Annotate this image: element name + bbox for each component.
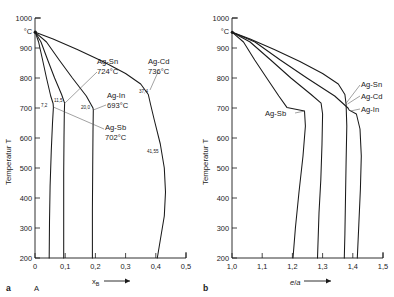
annotation-20-0: 20,0 <box>81 105 90 110</box>
figure-container: 1000 900 800 700 600 500 400 300 200 °C <box>0 0 394 297</box>
label-ag-in-temp: 693°C <box>107 101 129 110</box>
leader-ag-in <box>351 109 361 111</box>
leader-ag-sb <box>295 111 305 113</box>
panel-b-letter: b <box>203 283 208 293</box>
label-ag-cd: Ag-Cd <box>361 92 383 101</box>
y-tick-500: 500 <box>217 164 229 173</box>
y-tick-400: 400 <box>20 194 32 203</box>
y-axis-title: Temperatur T <box>201 139 210 185</box>
panel-b-x-ticklabels: 1,0 1,1 1,2 1,3 1,4 1,5 <box>227 262 388 271</box>
curve-ag-sb <box>35 32 53 258</box>
y-tick-900: 900 <box>20 44 32 53</box>
y-tick-800: 800 <box>20 74 32 83</box>
panel-a-composition-annotations: 7,2 11,5 20,0 37,4 41,55 <box>41 89 159 154</box>
baseline-component-A: A <box>34 284 40 293</box>
annotation-37-4: 37,4 <box>139 89 148 94</box>
x-tick-0-4: 0,4 <box>151 262 161 271</box>
y-tick-700: 700 <box>20 104 32 113</box>
label-ag-sb-temp: 702°C <box>105 133 127 142</box>
x-tick-1-5: 1,5 <box>378 262 388 271</box>
x-tick-1-2: 1,2 <box>287 262 297 271</box>
y-tick-900: 900 <box>217 44 229 53</box>
x-tick-0-5: 0,5 <box>181 262 191 271</box>
y-tick-500: 500 <box>20 164 32 173</box>
leader-ag-sn <box>65 72 98 104</box>
panel-a-x-axis-title-group: xB <box>92 277 130 287</box>
y-axis-unit-celsius: °C <box>24 27 33 36</box>
panel-a-x-ticks <box>35 253 186 258</box>
x-tick-1-0: 1,0 <box>227 262 237 271</box>
y-tick-300: 300 <box>217 224 229 233</box>
annotation-7-2: 7,2 <box>41 103 48 108</box>
y-tick-700: 700 <box>217 104 229 113</box>
panel-a-x-ticklabels: 0 0,1 0,2 0,3 0,4 0,5 <box>33 262 191 271</box>
x-tick-0-3: 0,3 <box>120 262 130 271</box>
label-ag-sb: Ag-Sb <box>105 123 126 132</box>
panel-b-y-ticklabels: 1000 900 800 700 600 500 400 300 200 <box>213 14 229 263</box>
y-tick-800: 800 <box>217 74 229 83</box>
y-tick-600: 600 <box>217 134 229 143</box>
annotation-11-5: 11,5 <box>54 98 63 103</box>
annotation-41-55: 41,55 <box>147 149 159 154</box>
curve-ag-in <box>232 32 361 258</box>
panel-b-y-ticks <box>232 18 237 258</box>
x-tick-1-1: 1,1 <box>257 262 267 271</box>
panel-b-curve-labels: Ag-Sn Ag-Cd Ag-In Ag-Sb <box>265 80 383 118</box>
label-ag-in: Ag-In <box>361 105 379 114</box>
label-ag-in: Ag-In <box>107 91 125 100</box>
x-axis-title: xB <box>92 277 100 287</box>
panel-a-plot: 1000 900 800 700 600 500 400 300 200 °C <box>0 0 197 297</box>
y-axis-unit-celsius: °C <box>221 27 230 36</box>
y-tick-300: 300 <box>20 224 32 233</box>
panel-a-letter: a <box>6 283 11 293</box>
x-tick-0-2: 0,2 <box>90 262 100 271</box>
panel-b: 1000 900 800 700 600 500 400 300 200 °C <box>197 0 394 297</box>
x-tick-0-1: 0,1 <box>60 262 70 271</box>
x-tick-1-3: 1,3 <box>317 262 327 271</box>
x-axis-arrow-head <box>326 279 331 284</box>
label-ag-sb: Ag-Sb <box>265 109 286 118</box>
panel-b-x-ticks <box>232 253 383 258</box>
y-tick-600: 600 <box>20 134 32 143</box>
panel-b-curves <box>232 32 361 258</box>
panel-b-plot: 1000 900 800 700 600 500 400 300 200 °C <box>197 0 394 297</box>
label-ag-sn: Ag-Sn <box>361 80 382 89</box>
label-ag-sn-temp: 724°C <box>97 67 119 76</box>
x-tick-1-4: 1,4 <box>348 262 358 271</box>
label-ag-sn: Ag-Sn <box>97 57 118 66</box>
x-axis-title: e/a <box>290 278 301 287</box>
panel-a-y-ticklabels: 1000 900 800 700 600 500 400 300 200 <box>16 14 32 263</box>
panel-a-y-ticks <box>35 18 40 258</box>
panel-a-leaders <box>53 72 158 129</box>
label-ag-cd-temp: 736°C <box>148 67 170 76</box>
y-tick-1000: 1000 <box>213 14 229 23</box>
y-tick-200: 200 <box>20 254 32 263</box>
panel-a: 1000 900 800 700 600 500 400 300 200 °C <box>0 0 197 297</box>
leader-ag-in <box>93 105 106 110</box>
label-ag-cd: Ag-Cd <box>148 57 170 66</box>
x-tick-0: 0 <box>33 262 37 271</box>
y-tick-1000: 1000 <box>16 14 32 23</box>
y-tick-400: 400 <box>217 194 229 203</box>
x-axis-arrow-head <box>125 279 130 284</box>
y-axis-title: Temperatur T <box>4 139 13 185</box>
panel-a-curve-labels: Ag-Sn 724°C Ag-In 693°C Ag-Sb 702°C Ag-C… <box>97 57 170 142</box>
leader-ag-cd <box>348 96 361 104</box>
curve-ag-sb <box>232 32 305 258</box>
panel-b-x-axis-title-group: e/a <box>290 278 331 287</box>
leader-ag-sb <box>53 107 104 129</box>
